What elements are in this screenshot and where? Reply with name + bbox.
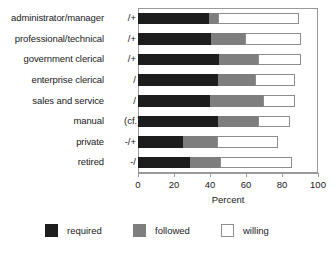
stacked-bar (138, 13, 318, 25)
category-marker: / (124, 91, 136, 112)
x-tick-label: 100 (310, 179, 326, 190)
bar-segment-required (138, 13, 209, 25)
bar-segment-willing (258, 54, 301, 66)
category-marker: /+ (124, 49, 136, 70)
x-tick-label: 0 (135, 179, 140, 190)
bar-segment-willing (263, 95, 295, 107)
category-label: government clerical (24, 49, 104, 70)
x-axis-title: Percent (138, 194, 318, 205)
stacked-bar (138, 116, 318, 128)
category-label: professional/technical (15, 29, 104, 50)
bar-row: private-/+ (0, 132, 336, 153)
stacked-bar-chart: administrator/manager/+professional/tech… (0, 0, 336, 253)
bar-row: manual(cf.) (0, 111, 336, 132)
bar-segment-willing (220, 157, 292, 169)
bar-row: professional/technical/+ (0, 29, 336, 50)
bar-segment-willing (218, 13, 299, 25)
bar-segment-followed (219, 54, 258, 66)
category-label: administrator/manager (11, 8, 104, 29)
category-label: retired (78, 152, 104, 173)
category-label: private (76, 132, 104, 153)
bar-segment-required (138, 33, 211, 45)
bar-row: enterprise clerical/ (0, 70, 336, 91)
x-tick-label: 20 (169, 179, 180, 190)
legend-swatch-willing (221, 224, 234, 237)
bar-segment-willing (258, 116, 290, 128)
legend-swatch-required (45, 224, 58, 237)
bar-row: sales and service/ (0, 91, 336, 112)
x-tick (318, 173, 319, 177)
category-marker: /+ (124, 8, 136, 29)
x-tick-label: 80 (277, 179, 288, 190)
bar-segment-followed (190, 157, 220, 169)
legend-swatch-followed (133, 224, 146, 237)
x-axis-line (138, 173, 318, 174)
legend-label: willing (243, 225, 269, 236)
bar-segment-required (138, 74, 218, 86)
bar-segment-required (138, 54, 219, 66)
category-label: sales and service (32, 91, 104, 112)
x-tick (174, 173, 175, 177)
bar-segment-required (138, 116, 218, 128)
bar-segment-followed (211, 33, 245, 45)
bar-segment-followed (210, 95, 263, 107)
x-tick (246, 173, 247, 177)
chart-legend: requiredfollowedwilling (0, 222, 336, 242)
stacked-bar (138, 74, 318, 86)
bar-row: retired-/ (0, 152, 336, 173)
category-label: enterprise clerical (31, 70, 104, 91)
stacked-bar (138, 95, 318, 107)
legend-item-willing: willing (221, 222, 269, 238)
x-tick (210, 173, 211, 177)
x-tick (138, 173, 139, 177)
bar-segment-followed (218, 74, 255, 86)
legend-item-followed: followed (133, 222, 190, 238)
bar-segment-required (138, 95, 210, 107)
category-marker: /+ (124, 29, 136, 50)
stacked-bar (138, 33, 318, 45)
x-tick-label: 60 (241, 179, 252, 190)
bar-segment-willing (217, 136, 278, 148)
bar-segment-willing (245, 33, 301, 45)
bar-segment-required (138, 157, 190, 169)
legend-label: required (67, 225, 102, 236)
stacked-bar (138, 136, 318, 148)
category-marker: -/+ (124, 132, 136, 153)
bar-segment-followed (183, 136, 217, 148)
legend-item-required: required (45, 222, 102, 238)
bar-row: administrator/manager/+ (0, 8, 336, 29)
bar-segment-willing (255, 74, 295, 86)
bar-segment-followed (209, 13, 218, 25)
category-label: manual (73, 111, 104, 132)
bar-segment-required (138, 136, 183, 148)
bar-row: government clerical/+ (0, 49, 336, 70)
category-marker: / (124, 70, 136, 91)
category-marker: (cf.) (124, 111, 136, 132)
bar-rows: administrator/manager/+professional/tech… (0, 8, 336, 173)
x-tick-label: 40 (205, 179, 216, 190)
x-tick (282, 173, 283, 177)
legend-label: followed (155, 225, 190, 236)
category-marker: -/ (124, 152, 136, 173)
stacked-bar (138, 157, 318, 169)
bar-segment-followed (218, 116, 258, 128)
stacked-bar (138, 54, 318, 66)
